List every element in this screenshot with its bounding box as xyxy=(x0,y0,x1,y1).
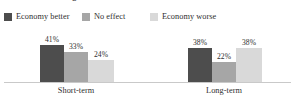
legend-item-label: Economy worse xyxy=(162,13,216,21)
bar[interactable]: 38% xyxy=(188,48,212,83)
legend-item-label: No effect xyxy=(94,13,125,21)
legend-swatch-icon xyxy=(4,13,12,21)
bar-value-label: 24% xyxy=(94,50,108,59)
cutoff-headline: short-term and long-term effects xyxy=(0,0,295,5)
chart-legend: Economy better No effect Economy worse xyxy=(0,10,295,24)
category-label: Short-term xyxy=(58,86,94,95)
legend-item-no-effect[interactable]: No effect xyxy=(82,10,125,24)
legend-swatch-icon xyxy=(82,13,90,21)
bar-value-label: 38% xyxy=(193,38,207,47)
plot-area: 41%33%24%38%22%38% xyxy=(0,24,295,83)
bar-value-label: 33% xyxy=(69,42,83,51)
legend-swatch-icon xyxy=(150,13,158,21)
bar[interactable]: 24% xyxy=(88,60,114,83)
legend-item-label: Economy better xyxy=(16,13,69,21)
legend-item-economy-worse[interactable]: Economy worse xyxy=(150,10,216,24)
legend-item-economy-better[interactable]: Economy better xyxy=(4,10,69,24)
bar-value-label: 41% xyxy=(45,35,59,44)
axis-baseline xyxy=(4,82,291,83)
bar[interactable]: 33% xyxy=(64,52,88,83)
bar[interactable]: 41% xyxy=(40,45,64,83)
grouped-bar-chart: short-term and long-term effects Economy… xyxy=(0,0,295,101)
bar-value-label: 38% xyxy=(242,38,256,47)
bar[interactable]: 38% xyxy=(236,48,262,83)
bar-value-label: 22% xyxy=(217,52,231,61)
bar[interactable]: 22% xyxy=(212,62,236,83)
category-label: Long-term xyxy=(206,86,242,95)
chart-headline-text: short-term and long-term effects xyxy=(2,0,123,1)
